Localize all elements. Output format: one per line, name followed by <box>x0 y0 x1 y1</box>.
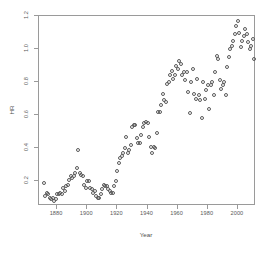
data-point <box>114 179 118 183</box>
data-point <box>63 189 67 193</box>
data-point <box>236 19 240 23</box>
x-axis-title: Year <box>140 231 153 238</box>
data-point <box>207 107 211 111</box>
data-point <box>185 70 189 74</box>
data-point <box>240 39 244 43</box>
y-tick <box>34 81 38 82</box>
plot-panel <box>38 15 255 205</box>
x-tick <box>147 205 148 209</box>
data-point <box>42 181 46 185</box>
data-point <box>243 27 247 31</box>
data-point <box>203 97 207 101</box>
x-tick-label: 1940 <box>140 210 153 216</box>
data-point <box>112 184 116 188</box>
data-point <box>237 31 241 35</box>
x-tick <box>56 205 57 209</box>
data-point <box>84 186 88 190</box>
x-tick-label: 1960 <box>170 210 183 216</box>
y-tick-label: 0.2 <box>23 176 29 184</box>
y-tick-label: 0.4 <box>23 143 29 151</box>
data-point <box>138 141 142 145</box>
data-point <box>117 161 121 165</box>
data-point <box>201 80 205 84</box>
data-point <box>54 197 58 201</box>
x-tick-label: 1980 <box>200 210 213 216</box>
data-point <box>115 169 119 173</box>
x-tick-label: 2000 <box>230 210 243 216</box>
data-point <box>192 92 196 96</box>
data-point <box>227 55 231 59</box>
y-tick-label: 0.8 <box>23 77 29 85</box>
data-point <box>76 148 80 152</box>
x-tick-label: 1880 <box>50 210 63 216</box>
data-point <box>188 111 192 115</box>
data-point <box>197 93 201 97</box>
data-point <box>147 135 151 139</box>
data-point <box>73 171 77 175</box>
y-tick-label: 1.2 <box>23 11 29 19</box>
data-point <box>81 174 85 178</box>
data-point <box>164 100 168 104</box>
data-point <box>231 39 235 43</box>
data-point <box>230 44 234 48</box>
y-tick-label: 1.0 <box>23 44 29 52</box>
data-point <box>121 151 125 155</box>
data-point <box>189 80 193 84</box>
x-tick-label: 1920 <box>110 210 123 216</box>
data-point <box>150 151 154 155</box>
data-point <box>146 121 150 125</box>
x-tick <box>177 205 178 209</box>
data-point <box>129 143 133 147</box>
data-point <box>93 189 97 193</box>
data-point <box>111 191 115 195</box>
data-point <box>66 183 70 187</box>
y-tick <box>34 180 38 181</box>
data-point <box>158 110 162 114</box>
y-tick <box>34 48 38 49</box>
data-point <box>186 90 190 94</box>
data-point <box>99 192 103 196</box>
data-point <box>225 65 229 69</box>
x-tick <box>237 205 238 209</box>
x-tick <box>116 205 117 209</box>
data-point <box>179 62 183 66</box>
data-point <box>139 133 143 137</box>
data-point <box>153 146 157 150</box>
data-point <box>155 131 159 135</box>
data-point <box>200 116 204 120</box>
data-point <box>210 80 214 84</box>
data-point <box>213 70 217 74</box>
data-point <box>167 80 171 84</box>
data-point <box>249 44 253 48</box>
y-axis-title: HR <box>8 106 15 115</box>
data-point <box>87 179 91 183</box>
data-point <box>216 57 220 61</box>
data-point <box>127 148 131 152</box>
y-tick <box>34 114 38 115</box>
data-point <box>159 103 163 107</box>
data-point <box>252 57 256 61</box>
y-tick-label: 0.6 <box>23 110 29 118</box>
data-point <box>251 37 255 41</box>
data-point <box>218 78 222 82</box>
data-point <box>239 45 243 49</box>
data-point <box>176 67 180 71</box>
data-point <box>123 146 127 150</box>
data-point <box>124 135 128 139</box>
data-point <box>234 24 238 28</box>
data-point <box>183 78 187 82</box>
data-point <box>195 77 199 81</box>
y-tick <box>34 147 38 148</box>
data-point <box>245 32 249 36</box>
data-point <box>198 98 202 102</box>
scatter-plot-figure: Year HR 18801900192019401960198020000.20… <box>0 0 271 254</box>
data-point <box>75 166 79 170</box>
x-tick <box>86 205 87 209</box>
data-point <box>222 80 226 84</box>
data-points-layer <box>39 16 254 204</box>
data-point <box>191 67 195 71</box>
data-point <box>161 92 165 96</box>
data-point <box>133 123 137 127</box>
data-point <box>170 69 174 73</box>
data-point <box>224 93 228 97</box>
